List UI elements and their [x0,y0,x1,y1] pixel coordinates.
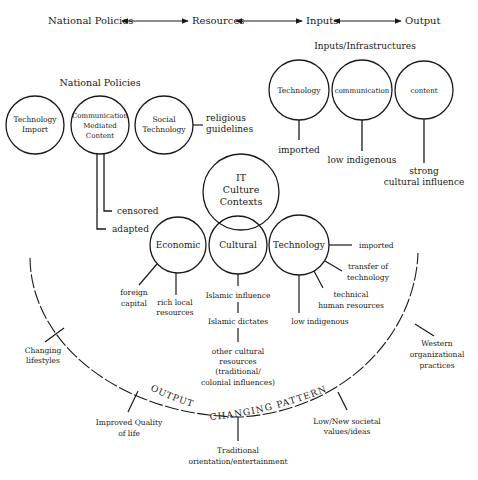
input-content-note-2: cultural influence [384,177,465,187]
societal-values-label-1: Low/New societal [313,417,381,426]
foreign-capital-label-2: capital [121,299,147,308]
censored-bracket [104,154,112,211]
it-culture-label-3: Contexts [220,196,263,207]
output-arc-group: OUTPUT CHANGING PATTERNS Changing lifest… [0,0,465,466]
inputs-cluster: Inputs/Infrastructures Technology import… [269,41,464,187]
tech-imported-label: imported [359,241,394,250]
foreign-capital-label-1: foreign [120,288,148,297]
rich-local-label-1: rich local [157,298,193,307]
tech-transfer-label-1: transfer of [348,262,389,271]
it-culture-label-1: IT [236,172,247,183]
western-practices-label-2: organizational [410,350,465,359]
improved-quality-label-2: of life [118,429,140,438]
tech-low-indigenous-label: low indigenous [291,317,349,326]
resources-cluster: IT Culture Contexts Economic foreign cap… [120,154,394,387]
changing-lifestyles-label-1: Changing [25,346,62,355]
tech-human-label-1: technical [334,290,369,299]
changing-lifestyles-label-2: lifestyles [26,356,60,365]
arc-label-output: OUTPUT [149,383,195,409]
flow-header: National Policies Resources Inputs Outpu… [48,15,441,26]
cmc-label-1: Communication [72,112,128,120]
traditional-label-1: Traditional [217,446,259,455]
tick-western-practices [415,324,434,336]
cmc-label-2: Mediated [83,122,117,130]
tick-societal-values [338,392,347,410]
societal-values-label-2: values/ideas [323,427,371,436]
resource-technology-label: Technology [273,240,326,250]
foreign-capital-link [139,264,157,285]
improved-quality-label-1: Improved Quality [96,418,163,427]
religious-guidelines-label-1: religious [206,113,246,123]
rich-local-label-2: resources [156,308,193,317]
cultural-label: Cultural [219,240,257,250]
input-technology-label: Technology [277,86,321,95]
western-practices-label-1: Western [421,339,452,348]
islamic-dictates-label: Islamic dictates [208,317,268,326]
national-policies-cluster: National Policies Technology Import Comm… [6,77,253,234]
western-practices-label-3: practices [420,361,455,370]
traditional-label-2: orientation/entertainment [189,457,288,466]
national-policies-title: National Policies [59,77,140,88]
other-cultural-label-3: (traditional/ [215,367,261,376]
economic-label: Economic [156,240,201,250]
tech-transfer-label-2: technology [347,273,390,282]
it-culture-diagram: National Policies Resources Inputs Outpu… [0,0,478,480]
technology-import-label-2: Import [22,125,48,134]
tech-transfer-link [325,261,342,271]
flow-inputs: Inputs [306,15,338,26]
input-technology-note: imported [278,145,320,155]
input-content-label: content [411,87,438,95]
other-cultural-label-2: resources [219,357,256,366]
tech-human-link [314,271,323,288]
inputs-title: Inputs/Infrastructures [314,41,416,51]
flow-output: Output [405,15,441,26]
input-communication-label: communication [335,87,390,95]
censored-label: censored [117,206,159,216]
social-technology-label-2: Technology [142,125,186,134]
input-content-note-1: strong [409,166,439,176]
social-technology-label-1: Social [152,115,176,124]
islamic-influence-label: Islamic influence [206,291,271,300]
religious-guidelines-label-2: guidelines [206,124,253,134]
adapted-label: adapted [112,224,149,234]
tech-human-label-2: human resources [318,301,384,310]
cmc-label-3: Content [86,132,115,140]
other-cultural-label-1: other cultural [212,347,265,356]
tick-improved-quality [128,391,138,412]
it-culture-label-2: Culture [223,184,260,195]
technology-import-label-1: Technology [13,115,57,124]
input-communication-note: low indigenous [328,155,397,165]
other-cultural-label-4: colonial influences) [201,378,275,387]
flow-national-policies: National Policies [48,15,133,26]
